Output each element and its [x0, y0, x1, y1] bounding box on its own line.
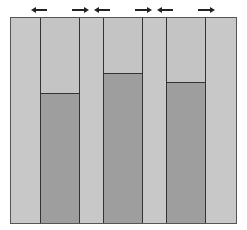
- diagram-frame: [10, 17, 237, 224]
- arrow-left-icon: [97, 9, 110, 11]
- bar-3: [167, 82, 205, 223]
- column-2: [103, 18, 143, 223]
- arrow-right-icon: [72, 9, 86, 11]
- column-3: [166, 18, 206, 223]
- arrow-left-icon: [34, 9, 47, 11]
- bar-2: [104, 73, 142, 223]
- column-1: [40, 18, 80, 223]
- bar-1: [41, 93, 79, 223]
- arrow-right-icon: [198, 9, 212, 11]
- arrow-left-icon: [160, 9, 173, 11]
- arrow-right-icon: [135, 9, 149, 11]
